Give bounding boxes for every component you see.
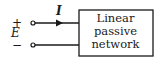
network-label-line3: network [78,38,153,51]
current-label: I [56,5,62,17]
bottom-terminal [31,43,35,47]
current-arrow-icon [56,20,63,27]
network-label: Linear passive network [78,12,153,51]
minus-sign: − [12,39,22,51]
top-terminal [31,21,35,25]
